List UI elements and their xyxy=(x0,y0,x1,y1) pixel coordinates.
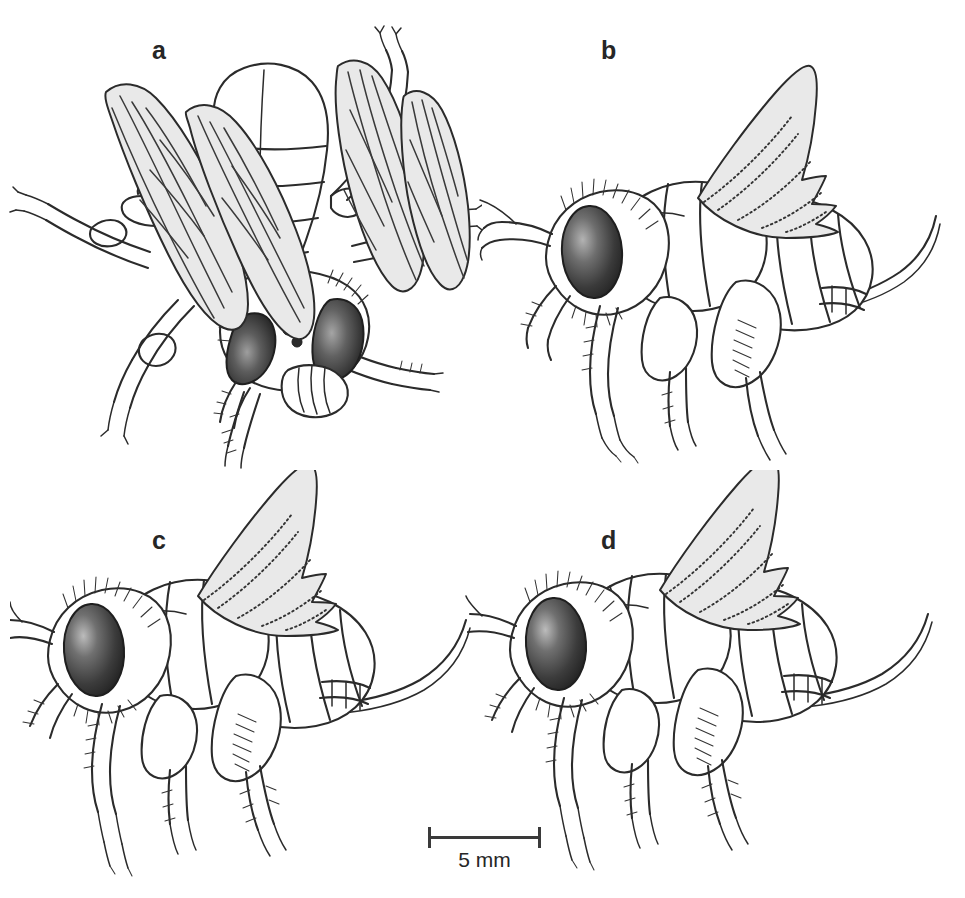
panel-a xyxy=(0,0,482,470)
wing-shape-d xyxy=(660,470,800,630)
wing-raised-b xyxy=(698,66,838,238)
panel-b xyxy=(470,20,965,480)
scale-bar-graphic xyxy=(420,826,560,848)
panel-label-c: c xyxy=(152,526,166,555)
panel-label-a: a xyxy=(152,36,166,65)
head-group-c xyxy=(10,577,171,738)
wing-shape-c xyxy=(198,470,338,636)
scale-bar: 5 mm xyxy=(420,826,560,886)
wing-raised-d xyxy=(660,470,800,630)
panel-a-drawing xyxy=(0,0,482,470)
wing-raised-c xyxy=(198,470,338,636)
figure-plate: a xyxy=(0,0,965,898)
head-group-b xyxy=(478,179,669,360)
panel-b-drawing xyxy=(470,20,965,480)
scale-bar-line xyxy=(428,836,541,839)
head-group-d xyxy=(466,571,633,732)
panel-label-b: b xyxy=(601,36,616,65)
wing-shape-b xyxy=(698,66,838,238)
scale-bar-label: 5 mm xyxy=(420,848,549,872)
scale-bar-tick-right xyxy=(538,827,541,848)
panel-label-d: d xyxy=(601,526,616,555)
